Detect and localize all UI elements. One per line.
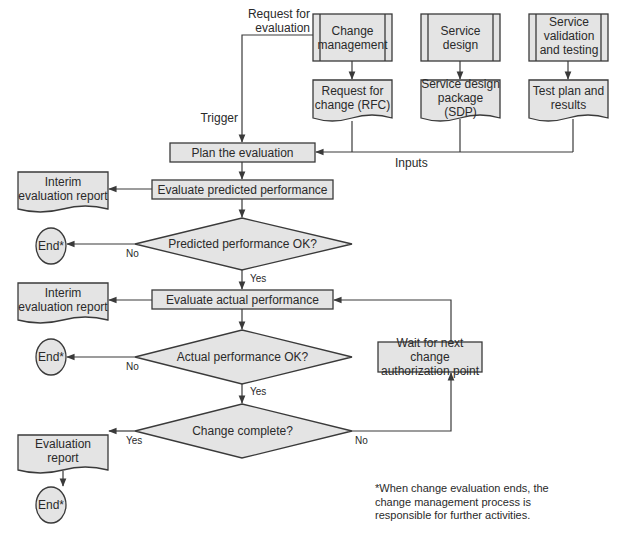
footnote: *When change evaluation ends, the change… bbox=[375, 482, 575, 523]
doc-label-test-plan: Test plan and results bbox=[529, 82, 608, 114]
edge-label-no-2: No bbox=[126, 361, 139, 373]
source-label-service-design: Service design bbox=[428, 14, 493, 61]
edge-label-trigger: Trigger bbox=[193, 111, 238, 125]
output-interim-report-1: Interim evaluation report bbox=[18, 174, 108, 204]
output-evaluation-report: Evaluation report bbox=[30, 436, 96, 466]
edge-label-no-3: No bbox=[355, 435, 368, 447]
source-label-change-management: Change management bbox=[320, 14, 385, 61]
terminal-end-2: End* bbox=[36, 349, 66, 365]
edge-label-request-for-evaluation: Request for evaluation bbox=[246, 7, 310, 35]
decision-actual-ok: Actual performance OK? bbox=[150, 349, 335, 365]
source-label-service-validation: Service validation and testing bbox=[534, 12, 604, 59]
decision-change-complete: Change complete? bbox=[150, 423, 335, 439]
process-wait: Wait for next change authorization point bbox=[380, 342, 480, 372]
edge-label-yes-2: Yes bbox=[250, 386, 266, 398]
process-plan: Plan the evaluation bbox=[170, 143, 315, 162]
process-evaluate-actual: Evaluate actual performance bbox=[152, 290, 333, 309]
doc-label-rfc: Request for change (RFC) bbox=[313, 82, 392, 114]
edge-label-inputs: Inputs bbox=[395, 156, 445, 170]
decision-predicted-ok: Predicted performance OK? bbox=[150, 236, 335, 252]
edge-label-yes-3: Yes bbox=[126, 435, 142, 447]
terminal-end-3: End* bbox=[36, 497, 66, 513]
process-evaluate-predicted: Evaluate predicted performance bbox=[152, 180, 333, 199]
output-interim-report-2: Interim evaluation report bbox=[18, 285, 108, 315]
doc-label-sdp: Service design package (SDP) bbox=[421, 82, 500, 114]
edge-label-no-1: No bbox=[126, 248, 139, 260]
edge-label-yes-1: Yes bbox=[250, 273, 266, 285]
terminal-end-1: End* bbox=[36, 238, 66, 254]
